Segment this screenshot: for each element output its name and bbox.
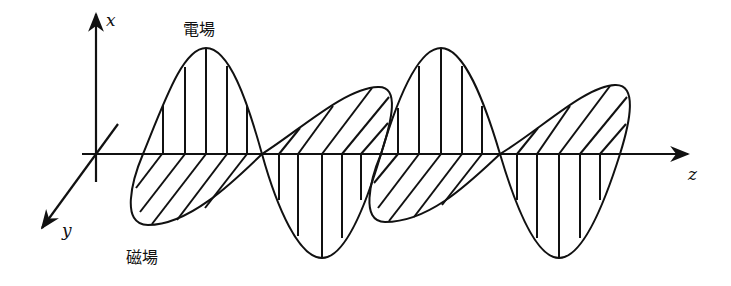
em-wave-diagram xyxy=(0,0,731,286)
axes xyxy=(42,14,688,228)
y-axis xyxy=(42,124,118,228)
magnetic-field-label: 磁場 xyxy=(126,244,158,268)
z-axis-label: z xyxy=(688,164,697,184)
electric-field-label: 電場 xyxy=(183,16,215,40)
x-axis-label: x xyxy=(106,10,116,30)
y-axis-label: y xyxy=(62,220,72,240)
